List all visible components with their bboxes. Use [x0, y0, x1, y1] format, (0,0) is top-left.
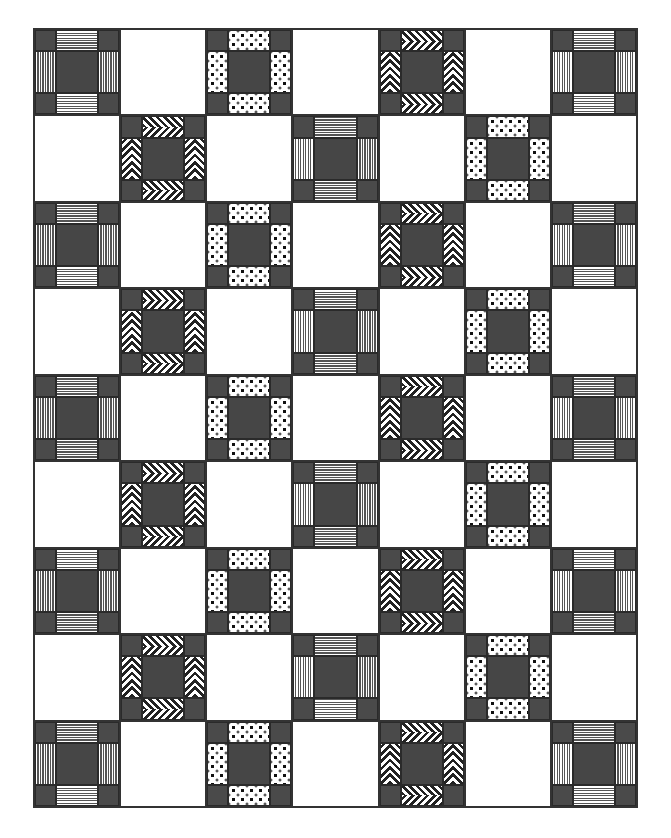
patch-corner: [615, 785, 636, 806]
patch-bar-bottom: [314, 526, 356, 547]
patch-bar-bottom: [314, 698, 356, 719]
patch-center: [401, 51, 443, 93]
patch-bar-bottom: [573, 93, 615, 114]
quilt-block-chevron: [379, 375, 465, 461]
patch-center: [573, 224, 615, 266]
patch-bar-top: [142, 289, 184, 310]
nine-patch-stripes: [35, 376, 119, 460]
patch-bar-right: [615, 224, 636, 266]
patch-bar-right: [98, 743, 119, 785]
patch-corner: [121, 116, 142, 137]
patch-bar-bottom: [228, 93, 270, 114]
patch-corner: [35, 439, 56, 460]
patch-corner: [552, 612, 573, 633]
patch-bar-right: [270, 570, 291, 612]
patch-corner: [293, 462, 314, 483]
patch-center: [142, 310, 184, 352]
patch-bar-bottom: [487, 526, 529, 547]
patch-corner: [357, 526, 378, 547]
patch-bar-bottom: [401, 612, 443, 633]
patch-corner: [380, 203, 401, 224]
patch-corner: [270, 30, 291, 51]
nine-patch-chevron: [380, 722, 464, 806]
nine-patch-dots: [466, 635, 550, 719]
patch-corner: [443, 785, 464, 806]
patch-corner: [121, 289, 142, 310]
quilt-block-chevron: [379, 29, 465, 115]
patch-corner: [293, 116, 314, 137]
patch-bar-left: [466, 310, 487, 352]
patch-corner: [35, 266, 56, 287]
patch-bar-left: [552, 51, 573, 93]
patch-center: [487, 310, 529, 352]
quilt-block-stripes: [292, 115, 378, 201]
patch-corner: [184, 698, 205, 719]
patch-corner: [380, 722, 401, 743]
patch-corner: [529, 116, 550, 137]
quilt-block-plain: [551, 115, 637, 201]
nine-patch-dots: [207, 549, 291, 633]
patch-center: [142, 138, 184, 180]
quilt-block-chevron: [120, 634, 206, 720]
patch-center: [401, 224, 443, 266]
quilt-block-stripes: [34, 548, 120, 634]
quilt-block-plain: [292, 721, 378, 807]
patch-bar-right: [98, 51, 119, 93]
quilt-block-chevron: [120, 115, 206, 201]
patch-corner: [529, 635, 550, 656]
quilt-block-stripes: [34, 202, 120, 288]
quilt-block-stripes: [34, 375, 120, 461]
patch-center: [314, 310, 356, 352]
patch-bar-left: [380, 224, 401, 266]
patch-corner: [35, 612, 56, 633]
patch-bar-right: [184, 138, 205, 180]
patch-corner: [357, 289, 378, 310]
patch-corner: [121, 462, 142, 483]
patch-bar-bottom: [573, 785, 615, 806]
patch-bar-bottom: [142, 698, 184, 719]
patch-bar-top: [314, 462, 356, 483]
patch-corner: [207, 93, 228, 114]
quilt-block-stripes: [551, 721, 637, 807]
patch-corner: [293, 289, 314, 310]
patch-bar-left: [293, 138, 314, 180]
patch-bar-top: [142, 462, 184, 483]
patch-center: [56, 743, 98, 785]
patch-bar-bottom: [56, 439, 98, 460]
patch-center: [487, 483, 529, 525]
patch-corner: [552, 722, 573, 743]
patch-corner: [443, 722, 464, 743]
patch-corner: [443, 93, 464, 114]
patch-corner: [357, 116, 378, 137]
patch-bar-left: [207, 570, 228, 612]
patch-bar-bottom: [573, 612, 615, 633]
patch-bar-top: [573, 722, 615, 743]
quilt-block-plain: [206, 461, 292, 547]
patch-corner: [552, 266, 573, 287]
patch-bar-top: [401, 376, 443, 397]
patch-corner: [552, 439, 573, 460]
patch-center: [56, 397, 98, 439]
patch-corner: [98, 549, 119, 570]
patch-corner: [270, 549, 291, 570]
nine-patch-stripes: [552, 203, 636, 287]
nine-patch-stripes: [552, 30, 636, 114]
patch-corner: [615, 722, 636, 743]
nine-patch-dots: [207, 30, 291, 114]
patch-bar-left: [207, 397, 228, 439]
quilt-block-stripes: [292, 634, 378, 720]
patch-bar-bottom: [228, 785, 270, 806]
patch-bar-bottom: [142, 180, 184, 201]
patch-bar-top: [228, 203, 270, 224]
patch-bar-right: [98, 570, 119, 612]
patch-bar-left: [552, 743, 573, 785]
patch-corner: [443, 549, 464, 570]
patch-corner: [121, 526, 142, 547]
patch-corner: [184, 289, 205, 310]
patch-corner: [615, 376, 636, 397]
quilt-block-plain: [551, 634, 637, 720]
quilt-block-plain: [379, 288, 465, 374]
patch-corner: [207, 376, 228, 397]
patch-bar-left: [380, 570, 401, 612]
patch-corner: [98, 93, 119, 114]
